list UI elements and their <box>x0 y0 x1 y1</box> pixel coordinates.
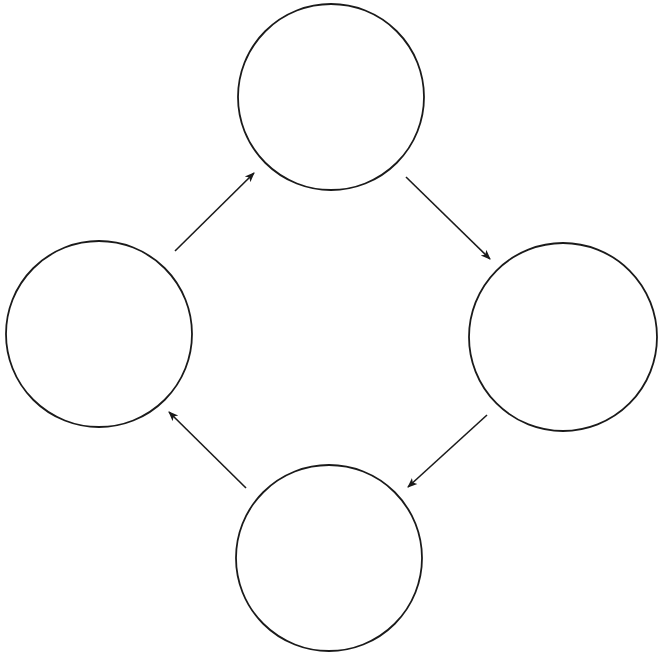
cycle-diagram <box>0 0 658 658</box>
nodes-group <box>6 4 657 651</box>
arrow-left-to-top <box>175 173 254 251</box>
node-left <box>6 241 192 427</box>
arrow-bottom-to-left <box>169 412 246 488</box>
node-right <box>469 243 657 431</box>
node-top <box>238 4 424 190</box>
arrow-right-to-bottom <box>408 415 487 487</box>
arrow-top-to-right <box>406 177 490 259</box>
edges-group <box>169 173 490 488</box>
node-bottom <box>236 465 422 651</box>
